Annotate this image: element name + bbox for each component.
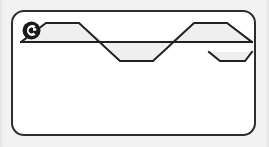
badge-letter-c-notch (33, 28, 36, 31)
circled-letter-c-icon: C (22, 21, 41, 40)
page-edge-shade-left (0, 0, 4, 147)
trapezoidal-wave-figure (13, 12, 258, 138)
wave-trough-lobe-1 (104, 42, 169, 61)
page-root: C (0, 0, 269, 147)
badge-circle (23, 22, 41, 40)
waveform-card: C (11, 10, 256, 136)
page-edge-shade-right (265, 0, 269, 147)
